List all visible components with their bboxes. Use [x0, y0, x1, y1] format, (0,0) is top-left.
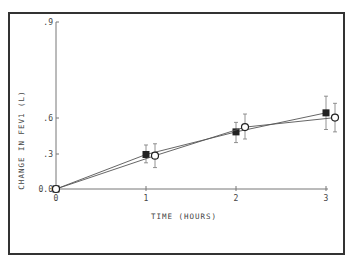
data-point-circle: [332, 114, 339, 121]
x-tick-label: 0: [54, 194, 59, 203]
data-point-circle: [53, 186, 60, 193]
y-tick-label: .3: [43, 150, 53, 159]
y-tick-label: 0.0: [39, 185, 54, 194]
x-tick-label: 3: [324, 194, 329, 203]
series-open-circles: [53, 103, 339, 192]
data-point-square: [143, 151, 150, 158]
data-point-circle: [242, 124, 249, 131]
plot-area: [53, 96, 339, 192]
data-point-circle: [152, 152, 159, 159]
series-line: [56, 113, 326, 189]
x-tick-label: 1: [144, 194, 149, 203]
line-chart: 0.0.3.6.90123 CHANGE IN FEV1 (L) TIME (H…: [0, 0, 351, 261]
axes: 0.0.3.6.90123: [39, 18, 329, 203]
x-tick-label: 2: [234, 194, 239, 203]
x-axis-title: TIME (HOURS): [151, 212, 217, 221]
y-tick-label: .9: [43, 18, 53, 27]
series-line: [56, 118, 335, 189]
y-tick-label: .6: [43, 114, 53, 123]
data-point-square: [323, 109, 330, 116]
y-axis-title: CHANGE IN FEV1 (L): [17, 90, 26, 189]
